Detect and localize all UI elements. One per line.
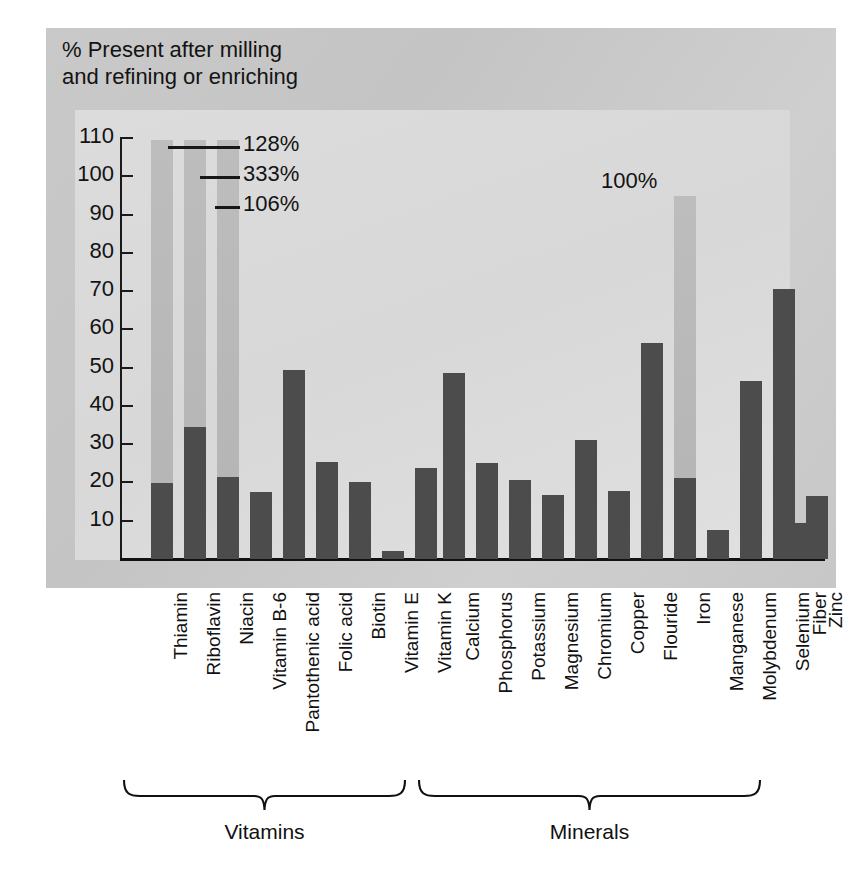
- callout-label-128: 128%: [243, 131, 299, 157]
- bar-flouride[interactable]: [641, 0, 663, 559]
- bar-iron[interactable]: [674, 0, 696, 559]
- brace-vitamins: [122, 778, 407, 812]
- bar-riboflavin[interactable]: [184, 0, 206, 559]
- bar-calcium[interactable]: [443, 0, 465, 559]
- x-label-pantothenic-acid: Pantothenic acid: [302, 592, 324, 733]
- x-label-riboflavin: Riboflavin: [203, 592, 225, 675]
- bar-fiber[interactable]: [790, 0, 812, 559]
- bar-manganese[interactable]: [707, 0, 729, 559]
- bar-fill: [250, 492, 272, 559]
- bar-fill: [509, 480, 531, 559]
- x-label-phosphorus: Phosphorus: [495, 592, 517, 693]
- bar-fill: [476, 463, 498, 559]
- bar-phosphorus[interactable]: [476, 0, 498, 559]
- x-label-folic-acid: Folic acid: [335, 592, 357, 672]
- brace-minerals: [417, 778, 762, 812]
- bar-potassium[interactable]: [509, 0, 531, 559]
- bar-fill: [349, 482, 371, 559]
- bar-series: [0, 0, 854, 890]
- bar-fill: [674, 478, 696, 559]
- x-label-potassium: Potassium: [528, 592, 550, 681]
- callout-leader-333: [200, 176, 240, 179]
- x-label-vitamin-k: Vitamin K: [434, 592, 456, 673]
- bar-fill: [575, 440, 597, 559]
- bar-vitamin-b-6[interactable]: [250, 0, 272, 559]
- bar-fill: [151, 483, 173, 559]
- bar-fill: [415, 468, 437, 559]
- x-label-magnesium: Magnesium: [561, 592, 583, 690]
- x-label-flouride: Flouride: [660, 592, 682, 661]
- bar-fill: [283, 370, 305, 559]
- x-label-vitamin-b-6: Vitamin B-6: [269, 592, 291, 690]
- bar-pantothenic-acid[interactable]: [283, 0, 305, 559]
- bar-fill: [740, 381, 762, 559]
- bar-fill: [184, 427, 206, 559]
- x-label-niacin: Niacin: [236, 592, 258, 645]
- callout-leader-128: [168, 146, 240, 149]
- bar-fill: [641, 343, 663, 559]
- bar-biotin[interactable]: [349, 0, 371, 559]
- bar-vitamin-e[interactable]: [382, 0, 404, 559]
- bar-chromium[interactable]: [575, 0, 597, 559]
- bar-thiamin[interactable]: [151, 0, 173, 559]
- bar-fill: [608, 491, 630, 559]
- bar-fill: [316, 462, 338, 559]
- x-label-copper: Copper: [627, 592, 649, 654]
- bar-folic-acid[interactable]: [316, 0, 338, 559]
- callout-leader-106: [215, 206, 240, 209]
- x-label-iron: Iron: [693, 592, 715, 625]
- callout-label-100: 100%: [601, 168, 657, 194]
- bar-magnesium[interactable]: [542, 0, 564, 559]
- x-label-manganese: Manganese: [726, 592, 748, 691]
- bar-fill: [542, 495, 564, 559]
- x-label-thiamin: Thiamin: [170, 592, 192, 660]
- bar-niacin[interactable]: [217, 0, 239, 559]
- x-label-fiber: Fiber: [809, 592, 831, 635]
- bar-copper[interactable]: [608, 0, 630, 559]
- bar-fill: [790, 523, 812, 559]
- x-label-molybdenum: Molybdenum: [759, 592, 781, 701]
- x-label-biotin: Biotin: [368, 592, 390, 640]
- bar-fill: [382, 551, 404, 559]
- x-label-vitamin-e: Vitamin E: [401, 592, 423, 673]
- figure-page: % Present after milling and refining or …: [0, 0, 854, 890]
- group-label-vitamins: Vitamins: [122, 820, 407, 844]
- x-label-calcium: Calcium: [462, 592, 484, 661]
- bar-fill: [707, 530, 729, 559]
- bar-fill: [217, 477, 239, 559]
- bar-vitamin-k[interactable]: [415, 0, 437, 559]
- x-label-chromium: Chromium: [594, 592, 616, 680]
- callout-label-106: 106%: [243, 191, 299, 217]
- callout-label-333: 333%: [243, 161, 299, 187]
- group-label-minerals: Minerals: [417, 820, 762, 844]
- bar-molybdenum[interactable]: [740, 0, 762, 559]
- bar-fill: [443, 373, 465, 559]
